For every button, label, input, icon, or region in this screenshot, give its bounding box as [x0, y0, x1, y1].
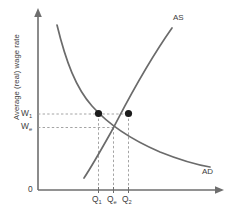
x-axis-arrowhead — [215, 186, 224, 194]
qe-base: Q — [107, 194, 114, 204]
as-ad-wage-rate-chart: Average (real) wage rate AS AD W1 We 0 Q… — [0, 0, 234, 216]
x-tick-label-q1: Q1 — [92, 195, 102, 204]
w1-subscript: 1 — [29, 113, 32, 119]
chart-canvas — [0, 0, 234, 216]
qe-subscript: e — [114, 199, 117, 205]
x-tick-label-q2: Q2 — [122, 195, 132, 204]
y-axis-label: Average (real) wage rate — [13, 34, 21, 120]
marker-supply-at-w1 — [125, 110, 132, 117]
x-tick-label-qe: Qe — [107, 195, 117, 204]
we-base: W — [21, 121, 29, 131]
w1-base: W — [21, 108, 29, 118]
q2-subscript: 2 — [129, 199, 132, 205]
y-tick-label-w1: W1 — [21, 109, 32, 118]
origin-label: 0 — [28, 185, 33, 193]
y-axis-arrowhead — [34, 8, 42, 17]
ad-curve-label: AD — [202, 168, 213, 176]
q1-subscript: 1 — [99, 199, 102, 205]
q1-base: Q — [92, 194, 99, 204]
q2-base: Q — [122, 194, 129, 204]
y-tick-label-we: We — [21, 122, 32, 131]
we-subscript: e — [29, 126, 32, 132]
marker-demand-at-w1 — [95, 110, 102, 117]
as-curve-label: AS — [173, 14, 184, 22]
ad-curve — [57, 25, 210, 167]
as-curve — [84, 28, 172, 178]
axes-group — [34, 8, 224, 194]
